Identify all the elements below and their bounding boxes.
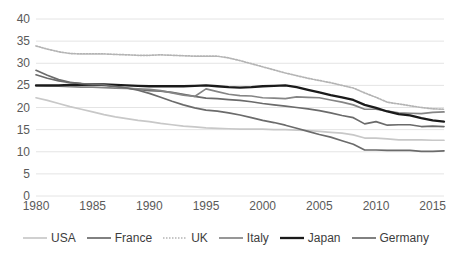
x-tick-label: 1980	[23, 200, 50, 212]
legend-item-japan[interactable]: Japan	[280, 232, 341, 244]
legend-item-uk[interactable]: UK	[163, 232, 208, 244]
y-tick-label: 5	[0, 168, 30, 180]
legend-label: France	[115, 232, 152, 244]
y-tick-label: 30	[0, 57, 30, 69]
y-tick-label: 25	[0, 79, 30, 91]
legend-label: Germany	[380, 232, 429, 244]
y-tick-label: 40	[0, 13, 30, 25]
series-line-usa	[36, 98, 444, 140]
legend-label: Japan	[308, 232, 341, 244]
series-lines	[36, 19, 444, 196]
legend-swatch-japan-icon	[280, 233, 304, 243]
x-tick-label: 1985	[79, 200, 106, 212]
y-axis: 0510152025303540	[0, 19, 30, 196]
legend-item-italy[interactable]: Italy	[219, 232, 269, 244]
y-tick-label: 10	[0, 146, 30, 158]
series-line-japan	[36, 84, 444, 121]
legend-swatch-usa-icon	[23, 233, 47, 243]
legend-swatch-germany-icon	[352, 233, 376, 243]
x-tick-label: 2005	[306, 200, 333, 212]
legend-item-france[interactable]: France	[87, 232, 152, 244]
x-axis: 19801985199019952000200520102015	[36, 200, 444, 218]
legend-label: USA	[51, 232, 76, 244]
chart-legend: USAFranceUKItalyJapanGermany	[0, 228, 452, 248]
legend-item-usa[interactable]: USA	[23, 232, 76, 244]
plot-area	[36, 19, 444, 196]
x-tick-label: 2015	[419, 200, 446, 212]
line-chart: 0510152025303540 19801985199019952000200…	[0, 0, 452, 256]
x-tick-label: 1990	[136, 200, 163, 212]
legend-swatch-france-icon	[87, 233, 111, 243]
legend-swatch-italy-icon	[219, 233, 243, 243]
x-tick-label: 1995	[193, 200, 220, 212]
legend-label: Italy	[247, 232, 269, 244]
y-tick-label: 15	[0, 124, 30, 136]
x-tick-label: 2000	[249, 200, 276, 212]
x-tick-label: 2010	[363, 200, 390, 212]
legend-item-germany[interactable]: Germany	[352, 232, 429, 244]
y-tick-label: 35	[0, 35, 30, 47]
y-tick-label: 20	[0, 102, 30, 114]
legend-swatch-uk-icon	[163, 233, 187, 243]
legend-label: UK	[191, 232, 208, 244]
